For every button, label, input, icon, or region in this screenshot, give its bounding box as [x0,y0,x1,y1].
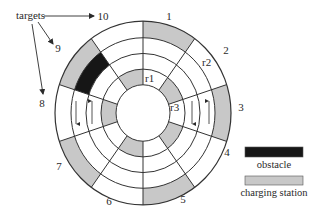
circular-track-diagram: 12345678910 r1r2r3 targets obstacle char… [0,0,323,217]
robot-labels: r1r2r3 [145,56,211,113]
direction-arrows [76,101,209,124]
ring-circle [116,85,170,141]
sector-label: 7 [56,160,62,172]
sector-label: 2 [223,44,229,56]
robot-label: r1 [145,72,154,84]
legend-charging-station-label: charging station [240,187,308,198]
sector-label: 1 [166,10,172,22]
targets-label: targets [16,9,45,21]
target-arrow-icon [32,24,43,94]
sector-labels: 12345678910 [39,10,244,207]
charging-station-cell [211,85,231,142]
sector-label: 6 [106,195,112,207]
legend-charging-station-swatch [245,176,303,185]
robot-label: r3 [170,101,180,113]
legend-obstacle-label: obstacle [257,159,292,170]
robot-label: r2 [202,56,211,68]
sector-label: 9 [55,42,61,54]
sector-label: 5 [180,193,186,205]
sector-label: 3 [238,101,244,113]
sector-label: 4 [224,146,230,158]
target-arrow-icon [38,22,53,44]
legend: obstacle charging station [240,147,308,198]
sector-label: 8 [39,97,45,109]
sector-label: 10 [98,10,110,22]
charging-station-cell [118,69,143,90]
charging-station-cell [118,136,143,157]
legend-obstacle-swatch [245,147,303,157]
